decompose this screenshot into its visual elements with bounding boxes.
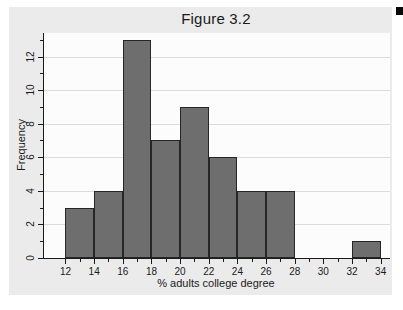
x-tick-major — [65, 259, 66, 264]
x-tick-major — [151, 259, 152, 264]
x-tick-major — [352, 259, 353, 264]
x-tick-minor — [80, 259, 81, 262]
x-tick-label: 16 — [117, 266, 128, 277]
x-tick-minor — [280, 259, 281, 262]
y-tick-label: 2 — [25, 222, 36, 228]
y-tick-major — [38, 124, 43, 125]
y-tick-major — [38, 57, 43, 58]
x-tick-label: 26 — [261, 266, 272, 277]
histogram-bar — [65, 208, 94, 258]
x-tick-major — [94, 259, 95, 264]
histogram-bar — [94, 191, 123, 258]
x-tick-minor — [338, 259, 339, 262]
x-tick-label: 14 — [89, 266, 100, 277]
x-tick-label: 20 — [175, 266, 186, 277]
x-tick-major — [209, 259, 210, 264]
x-tick-label: 30 — [318, 266, 329, 277]
y-tick-minor — [40, 241, 43, 242]
x-tick-major — [381, 259, 382, 264]
histogram-bar — [266, 191, 295, 258]
x-tick-label: 24 — [232, 266, 243, 277]
x-tick-label: 32 — [346, 266, 357, 277]
x-tick-minor — [108, 259, 109, 262]
histogram-bar — [237, 191, 266, 258]
y-axis-label: Frequency — [15, 119, 27, 171]
x-tick-minor — [223, 259, 224, 262]
y-tick-major — [38, 224, 43, 225]
histogram-bar — [123, 40, 152, 258]
y-gridline — [44, 90, 390, 91]
x-tick-major — [323, 259, 324, 264]
x-tick-minor — [194, 259, 195, 262]
x-tick-major — [123, 259, 124, 264]
x-tick-minor — [252, 259, 253, 262]
y-gridline — [44, 124, 390, 125]
x-tick-major — [266, 259, 267, 264]
y-tick-minor — [40, 107, 43, 108]
histogram-bar — [352, 241, 381, 258]
x-tick-label: 34 — [375, 266, 386, 277]
histogram-bar — [151, 140, 180, 258]
y-tick-label: 0 — [25, 255, 36, 261]
x-tick-minor — [366, 259, 367, 262]
x-tick-label: 12 — [60, 266, 71, 277]
x-tick-label: 22 — [203, 266, 214, 277]
figure-3-2-chart: Figure 3.2 12141618202224262830323402468… — [9, 7, 392, 295]
y-tick-major — [38, 90, 43, 91]
x-tick-major — [237, 259, 238, 264]
y-tick-minor — [40, 140, 43, 141]
histogram-bar — [180, 107, 209, 258]
x-tick-minor — [137, 259, 138, 262]
y-tick-major — [38, 157, 43, 158]
histogram-bar — [209, 157, 238, 258]
x-axis-label: % adults college degree — [43, 277, 389, 289]
y-tick-major — [38, 258, 43, 259]
y-tick-label: 4 — [25, 188, 36, 194]
plot-area: 121416182022242628303234024681012 — [43, 33, 390, 259]
x-tick-major — [295, 259, 296, 264]
y-tick-minor — [40, 40, 43, 41]
y-gridline — [44, 57, 390, 58]
y-tick-minor — [40, 73, 43, 74]
x-tick-label: 28 — [289, 266, 300, 277]
x-tick-minor — [166, 259, 167, 262]
page-edge-text-artifact — [396, 7, 403, 15]
x-tick-label: 18 — [146, 266, 157, 277]
y-tick-minor — [40, 208, 43, 209]
chart-title: Figure 3.2 — [43, 10, 389, 27]
y-tick-label: 12 — [25, 51, 36, 62]
y-tick-major — [38, 191, 43, 192]
y-tick-minor — [40, 174, 43, 175]
x-tick-major — [180, 259, 181, 264]
y-tick-label: 10 — [25, 85, 36, 96]
x-tick-minor — [309, 259, 310, 262]
